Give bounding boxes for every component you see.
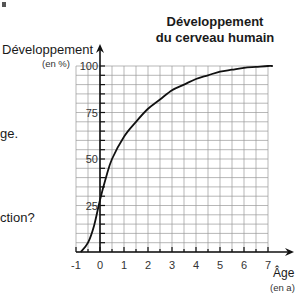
x-tick-label: 2 [145, 259, 151, 271]
x-tick-label: 6 [241, 259, 247, 271]
x-axis-unit: (en a) [270, 282, 295, 293]
x-tick-label: 4 [193, 259, 199, 271]
x-tick-label: 7 [265, 259, 271, 271]
x-tick-label: -1 [71, 259, 81, 271]
x-tick-label: 5 [217, 259, 223, 271]
y-tick-label: 50 [86, 153, 98, 165]
x-axis-label: Âge [273, 266, 294, 280]
x-tick-label: 3 [169, 259, 175, 271]
chart-plot: -101234567255075100 [0, 0, 308, 297]
x-tick-label: 0 [97, 259, 103, 271]
y-tick-label: 25 [86, 200, 98, 212]
x-tick-label: 1 [121, 259, 127, 271]
y-tick-label: 75 [86, 107, 98, 119]
y-tick-label: 100 [80, 60, 98, 72]
